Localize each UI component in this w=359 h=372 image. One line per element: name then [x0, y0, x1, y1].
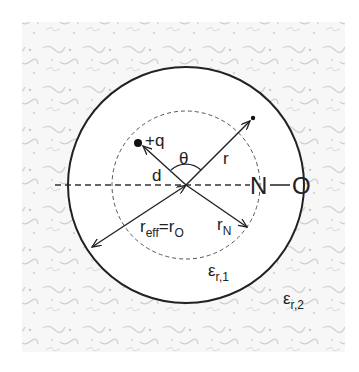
- field-point-dot: [251, 116, 255, 120]
- charge-label: +q: [145, 131, 164, 150]
- cavity-model-diagram: +q θ r d N O reff=rO rN εr,1 εr,2: [0, 0, 359, 372]
- theta-label: θ: [179, 149, 188, 168]
- diagram-canvas: +q θ r d N O reff=rO rN εr,1 εr,2: [0, 0, 359, 372]
- r-label: r: [223, 149, 229, 168]
- charge-dot: [134, 139, 142, 147]
- atom-O-label: O: [292, 172, 311, 199]
- d-label: d: [152, 166, 161, 185]
- atom-N-label: N: [250, 172, 267, 199]
